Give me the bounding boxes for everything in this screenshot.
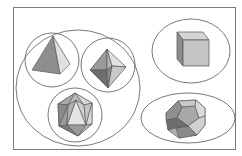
- platonic-solids-diagram: Platonic solids: [0, 0, 242, 156]
- diagram-canvas: [0, 0, 242, 156]
- cube-face-front: [183, 40, 209, 66]
